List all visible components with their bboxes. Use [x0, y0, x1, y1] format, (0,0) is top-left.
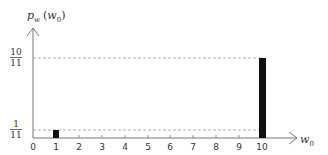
x-axis-label: w0: [300, 133, 314, 148]
svg-text:11: 11: [10, 130, 21, 140]
svg-text:0: 0: [30, 142, 36, 152]
svg-text:6: 6: [167, 142, 173, 152]
y-axis-label: pw(w0): [27, 9, 66, 24]
svg-text:11: 11: [10, 58, 21, 68]
y-tick-10-11: 10 11: [10, 47, 22, 68]
bar-w0-1: [53, 130, 59, 138]
svg-text:2: 2: [76, 142, 82, 152]
svg-text:10: 10: [256, 142, 268, 152]
svg-text:10: 10: [10, 47, 22, 57]
x-tick-labels: 0 1 2 3 4 5 6 7 8 9 10: [30, 142, 268, 152]
svg-text:5: 5: [145, 142, 151, 152]
bar-w0-10: [259, 58, 266, 138]
y-tick-1-11: 1 11: [10, 119, 22, 140]
svg-text:3: 3: [99, 142, 105, 152]
chart: pw(w0) w0 10 11 1 11 0 1 2 3: [0, 0, 328, 155]
svg-text:9: 9: [236, 142, 242, 152]
svg-text:4: 4: [122, 142, 128, 152]
svg-text:8: 8: [213, 142, 219, 152]
svg-text:1: 1: [13, 119, 19, 129]
svg-text:1: 1: [53, 142, 59, 152]
svg-text:7: 7: [190, 142, 196, 152]
